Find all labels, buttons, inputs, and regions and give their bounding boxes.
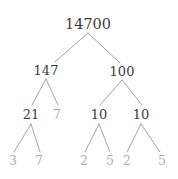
tree-node-prime-n4: 7 [53,108,61,121]
tree-node-composite-n1: 147 [34,64,59,77]
tree-edge [85,124,99,152]
tree-node-prime-n12: 5 [158,155,166,168]
tree-edge [141,124,160,152]
tree-node-prime-n7: 3 [9,155,17,168]
tree-edge [127,124,141,152]
tree-edge [14,124,31,152]
tree-edge [55,33,88,62]
tree-edge [46,79,58,105]
tree-node-composite-n3: 21 [23,108,40,121]
tree-edge [88,33,120,63]
tree-node-prime-n11: 2 [123,155,131,168]
tree-edge [32,79,46,105]
tree-node-prime-n9: 2 [80,155,88,168]
tree-node-composite-n5: 10 [91,108,108,121]
tree-edge [100,80,122,105]
tree-edge [31,124,40,152]
tree-edge [122,80,142,105]
factor-tree-diagram: 147001471002171010372525 [0,0,178,179]
tree-node-prime-n8: 7 [35,155,43,168]
tree-node-composite-n2: 100 [110,65,135,78]
tree-node-composite-n6: 10 [133,108,150,121]
tree-edge [99,124,110,152]
tree-node-composite-n0: 14700 [65,17,111,32]
tree-node-prime-n10: 5 [106,155,114,168]
